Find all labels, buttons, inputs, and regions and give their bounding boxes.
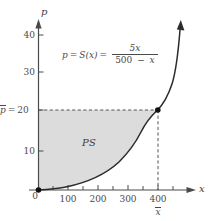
x-tick-label-300: 300 — [114, 195, 142, 204]
formula-denominator-constant: 500 — [115, 55, 132, 65]
x-tick-label-100: 100 — [54, 195, 82, 204]
formula-equals-1: = — [68, 50, 80, 60]
origin-tick-label-0: 0 — [29, 192, 38, 201]
pbar-equals-20-label: p=20 — [0, 105, 29, 115]
formula-fraction: 5x 500 − x — [112, 44, 158, 65]
y-tick-label-10: 10 — [14, 147, 35, 156]
formula-function-name: S(x) — [79, 50, 97, 60]
equilibrium-point — [155, 107, 161, 113]
producer-surplus-label: PS — [82, 138, 96, 148]
supply-function-formula: p = S(x) = 5x 500 − x — [62, 44, 158, 65]
y-axis-arrowhead — [35, 19, 41, 29]
formula-denominator-variable: x — [150, 55, 155, 65]
xbar-symbol: x — [155, 207, 160, 217]
y-axis-label: p — [41, 7, 47, 17]
y-tick-label-30: 30 — [14, 68, 35, 77]
supply-curve-arrowhead — [177, 20, 185, 31]
producer-surplus-shaded-region — [39, 110, 158, 190]
formula-denominator: 500 − x — [112, 55, 158, 65]
pbar-equals-sign: = — [6, 105, 18, 115]
y-tick-label-20: 20 — [17, 105, 28, 115]
x-axis-arrowhead — [187, 187, 197, 193]
pbar-symbol: p — [0, 105, 6, 115]
x-axis-label: x — [199, 184, 205, 194]
supply-curve-figure: p x 40 30 10 0 p=20 100 200 300 400 x PS… — [0, 0, 213, 221]
formula-equals-2: = — [98, 50, 110, 60]
x-tick-label-200: 200 — [84, 195, 112, 204]
formula-numerator: 5x — [127, 44, 144, 54]
x-tick-label-400: 400 — [144, 195, 172, 204]
y-tick-label-40: 40 — [14, 31, 35, 40]
formula-denominator-operator: − — [135, 55, 147, 65]
xbar-label: x — [144, 207, 172, 217]
